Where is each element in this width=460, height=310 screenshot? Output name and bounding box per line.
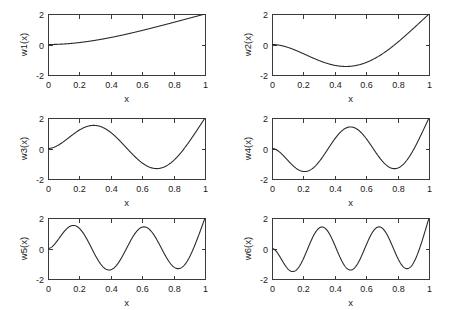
y-tick-label: 0 [39, 41, 44, 51]
x-tick-label: 0.6 [136, 80, 149, 90]
x-tick-label: 0.2 [73, 80, 86, 90]
figure-canvas: 00.20.40.60.8120-2xw1(x)00.20.40.60.8120… [0, 0, 460, 310]
y-tick-label: -2 [260, 275, 268, 285]
y-axis-label: w3(x) [18, 137, 29, 161]
y-axis-label: w2(x) [242, 33, 253, 57]
x-tick-label: 0 [270, 184, 275, 194]
mode-shape-curve [272, 218, 429, 272]
mode-shape-curve [48, 218, 205, 270]
y-tick-label: 0 [39, 145, 44, 155]
y-tick-label: 2 [263, 10, 268, 20]
y-tick-label: 0 [39, 245, 44, 255]
y-tick-label: 2 [39, 10, 44, 20]
x-tick-label: 1 [427, 184, 432, 194]
axes-p4: 00.20.40.60.8120-2xw4(x) [228, 106, 443, 213]
x-tick-label: 0.4 [105, 80, 118, 90]
x-tick-label: 0.2 [73, 284, 86, 294]
x-axis-label: x [124, 297, 129, 308]
axes-p3: 00.20.40.60.8120-2xw3(x) [4, 106, 219, 213]
y-axis-label: w6(x) [242, 237, 253, 261]
mode-shape-curve [272, 14, 429, 66]
plot-panel-p5: 00.20.40.60.8120-2xw5(x) [4, 206, 219, 310]
plot-panel-p2: 00.20.40.60.8120-2xw2(x) [228, 2, 443, 109]
x-tick-label: 0 [46, 80, 51, 90]
y-tick-label: 2 [39, 214, 44, 224]
x-tick-label: 0.2 [297, 284, 310, 294]
mode-shape-curve [272, 118, 429, 172]
x-tick-label: 0.2 [297, 184, 310, 194]
x-tick-label: 0.4 [329, 184, 342, 194]
axes-frame [49, 219, 206, 280]
x-tick-label: 0.6 [360, 80, 373, 90]
y-tick-label: 2 [263, 214, 268, 224]
x-tick-label: 0 [46, 184, 51, 194]
x-tick-label: 0.6 [360, 184, 373, 194]
x-tick-label: 1 [203, 284, 208, 294]
x-tick-label: 0.4 [329, 284, 342, 294]
y-tick-label: -2 [260, 71, 268, 81]
y-tick-label: 0 [263, 245, 268, 255]
y-tick-label: 0 [263, 145, 268, 155]
plot-panel-p3: 00.20.40.60.8120-2xw3(x) [4, 106, 219, 213]
x-tick-label: 1 [203, 80, 208, 90]
x-tick-label: 0.4 [329, 80, 342, 90]
y-tick-label: 2 [39, 114, 44, 124]
axes-p1: 00.20.40.60.8120-2xw1(x) [4, 2, 219, 109]
axes-p5: 00.20.40.60.8120-2xw5(x) [4, 206, 219, 310]
y-tick-label: -2 [36, 275, 44, 285]
x-tick-label: 0.6 [136, 284, 149, 294]
x-tick-label: 0.4 [105, 284, 118, 294]
x-tick-label: 0.6 [136, 184, 149, 194]
x-axis-label: x [124, 93, 129, 104]
x-tick-label: 1 [427, 80, 432, 90]
x-tick-label: 0.6 [360, 284, 373, 294]
x-axis-label: x [348, 297, 353, 308]
y-tick-label: -2 [260, 175, 268, 185]
x-tick-label: 0.2 [297, 80, 310, 90]
x-tick-label: 1 [427, 284, 432, 294]
y-axis-label: w1(x) [18, 33, 29, 57]
mode-shape-curve [48, 118, 205, 169]
x-tick-label: 0.8 [392, 184, 405, 194]
x-tick-label: 0.8 [168, 80, 181, 90]
x-tick-label: 0 [46, 284, 51, 294]
x-tick-label: 1 [203, 184, 208, 194]
plot-panel-p6: 00.20.40.60.8120-2xw6(x) [228, 206, 443, 310]
axes-p6: 00.20.40.60.8120-2xw6(x) [228, 206, 443, 310]
y-tick-label: 0 [263, 41, 268, 51]
axes-p2: 00.20.40.60.8120-2xw2(x) [228, 2, 443, 109]
y-axis-label: w4(x) [242, 137, 253, 161]
y-axis-label: w5(x) [18, 237, 29, 261]
x-tick-label: 0.8 [168, 184, 181, 194]
x-tick-label: 0.8 [168, 284, 181, 294]
x-tick-label: 0.4 [105, 184, 118, 194]
x-tick-label: 0.2 [73, 184, 86, 194]
mode-shape-curve [48, 14, 205, 45]
x-tick-label: 0.8 [392, 80, 405, 90]
x-axis-label: x [348, 93, 353, 104]
y-tick-label: -2 [36, 175, 44, 185]
plot-panel-p1: 00.20.40.60.8120-2xw1(x) [4, 2, 219, 109]
y-tick-label: 2 [263, 114, 268, 124]
x-tick-label: 0 [270, 284, 275, 294]
x-tick-label: 0 [270, 80, 275, 90]
axes-frame [273, 119, 430, 180]
plot-panel-p4: 00.20.40.60.8120-2xw4(x) [228, 106, 443, 213]
axes-frame [49, 15, 206, 76]
x-tick-label: 0.8 [392, 284, 405, 294]
y-tick-label: -2 [36, 71, 44, 81]
